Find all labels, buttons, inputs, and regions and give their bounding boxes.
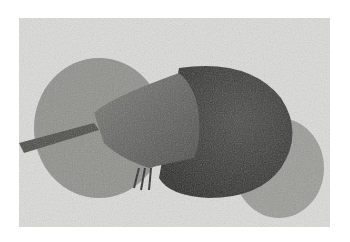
film-grain bbox=[19, 18, 330, 227]
photograph bbox=[19, 18, 330, 227]
photo-svg bbox=[19, 18, 330, 227]
